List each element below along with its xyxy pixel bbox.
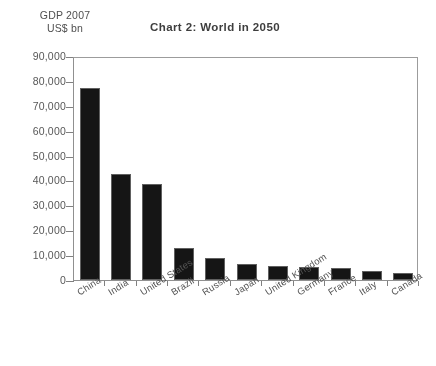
y-axis-tick-label: 60,000 (12, 125, 66, 137)
bar (80, 88, 100, 280)
bar (111, 174, 131, 280)
plot-area (73, 57, 418, 281)
x-axis-tick (198, 281, 199, 286)
y-axis-tick-label: 50,000 (12, 150, 66, 162)
x-axis-tick (387, 281, 388, 286)
y-axis-tick-label: 70,000 (12, 100, 66, 112)
y-axis-tick-label: 10,000 (12, 249, 66, 261)
x-axis-tick (104, 281, 105, 286)
y-axis-tick-label: 90,000 (12, 50, 66, 62)
y-axis-tick-label: 80,000 (12, 75, 66, 87)
y-axis-tick-label: 30,000 (12, 199, 66, 211)
bar (142, 184, 162, 280)
y-axis-tick-label: 20,000 (12, 224, 66, 236)
x-axis-tick (261, 281, 262, 286)
y-axis-tick-label: 40,000 (12, 174, 66, 186)
y-axis-tick-label: 0 (12, 274, 66, 286)
x-axis-tick (136, 281, 137, 286)
bar-series (74, 58, 417, 280)
chart-title: Chart 2: World in 2050 (150, 21, 280, 33)
chart-figure: GDP 2007 US$ bn Chart 2: World in 2050 9… (0, 0, 436, 366)
y-axis-title: GDP 2007 US$ bn (22, 9, 108, 35)
y-axis-tick (66, 281, 74, 282)
x-axis-category-label: Italy (357, 278, 378, 297)
